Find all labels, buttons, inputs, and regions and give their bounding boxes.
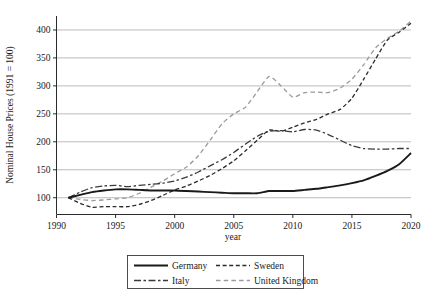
x-tick-label: 1995 bbox=[106, 221, 125, 231]
y-tick-label: 100 bbox=[36, 193, 51, 203]
legend-label-sweden: Sweden bbox=[254, 261, 284, 271]
series-lines bbox=[68, 21, 411, 207]
x-tick-label: 1990 bbox=[47, 221, 66, 231]
x-tick-label: 2005 bbox=[224, 221, 243, 231]
y-tick-label: 400 bbox=[36, 25, 51, 35]
x-tick-label: 2020 bbox=[402, 221, 421, 231]
y-tick-label: 250 bbox=[36, 109, 51, 119]
house-price-line-chart: 100150200250300350400 199019952000200520… bbox=[0, 0, 423, 300]
legend-label-germany: Germany bbox=[172, 261, 208, 271]
series-line-sweden bbox=[68, 23, 411, 207]
x-axis-title: year bbox=[225, 232, 242, 242]
y-tick-label: 150 bbox=[36, 165, 51, 175]
series-line-germany bbox=[68, 153, 411, 198]
chart-figure: 100150200250300350400 199019952000200520… bbox=[0, 0, 423, 300]
y-axis-title: Nominal House Prices (1991 = 100) bbox=[5, 46, 16, 184]
x-tick-label: 2000 bbox=[165, 221, 184, 231]
legend-label-italy: Italy bbox=[172, 276, 190, 286]
x-tick-label: 2010 bbox=[283, 221, 302, 231]
x-axis-ticks: 1990199520002005201020152020 bbox=[47, 215, 421, 231]
series-line-italy bbox=[68, 129, 411, 197]
x-tick-label: 2015 bbox=[342, 221, 361, 231]
y-tick-label: 200 bbox=[36, 137, 51, 147]
y-tick-label: 300 bbox=[36, 81, 51, 91]
series-line-united-kingdom bbox=[68, 21, 411, 200]
legend-label-united-kingdom: United Kingdom bbox=[254, 276, 319, 286]
gridlines bbox=[57, 30, 412, 198]
y-tick-label: 350 bbox=[36, 53, 51, 63]
y-axis-ticks: 100150200250300350400 bbox=[36, 25, 56, 203]
